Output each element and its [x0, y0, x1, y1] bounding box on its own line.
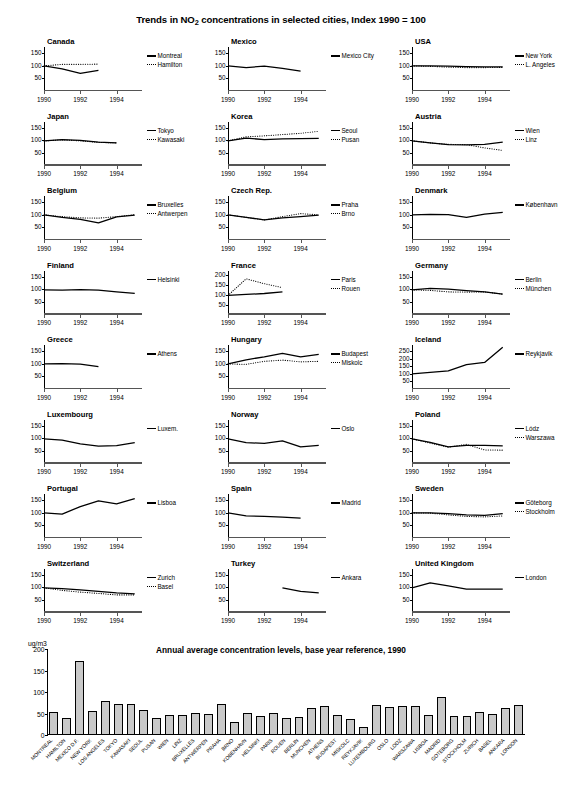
plot-area: 50100150199019921994 — [412, 271, 510, 315]
y-tick-label: 150 — [31, 572, 42, 578]
series-k-benhavn — [412, 212, 503, 217]
y-tick-label: 100 — [399, 286, 410, 292]
y-tick-label: 150 — [215, 572, 226, 578]
x-tick — [117, 389, 118, 392]
x-tick-label: 1990 — [405, 544, 419, 550]
panel-title: Belgium — [47, 186, 77, 195]
legend-item-rouen: Rouen — [331, 285, 375, 292]
bar-column — [125, 648, 138, 734]
y-tick-label: 100 — [215, 435, 226, 441]
x-tick — [117, 315, 118, 318]
x-tick — [412, 91, 413, 94]
x-tick-label: 1990 — [37, 395, 51, 401]
panel-title: Austria — [415, 112, 441, 121]
legend-label: Mexico City — [341, 52, 374, 59]
bar-column — [512, 648, 525, 734]
y-tick-label: 50 — [402, 597, 409, 603]
x-tick-label: 1992 — [73, 97, 87, 103]
legend-item-warszawa: Warszawa — [515, 434, 559, 441]
legend: BudapestMiskolc — [331, 350, 375, 368]
legend-item-mexico-city: Mexico City — [331, 52, 375, 59]
solid-line-icon — [515, 127, 524, 134]
y-tick-label: 100 — [215, 361, 226, 367]
x-tick-label: 1992 — [441, 544, 455, 550]
y-tick-label: 100 — [215, 212, 226, 218]
legend-item-wien: Wien — [515, 127, 559, 134]
plot-area: 50100150199019921994 — [44, 345, 142, 389]
y-tick-label: 100 — [31, 361, 42, 367]
bar-y-tick — [45, 671, 48, 672]
series-lines — [44, 122, 142, 166]
x-tick-label: 1990 — [37, 246, 51, 252]
legend: New YorkL. Angeles — [515, 52, 559, 70]
legend-label: Lódz — [525, 425, 539, 432]
y-tick-label: 150 — [31, 274, 42, 280]
legend-label: Linz — [525, 136, 537, 143]
x-tick — [485, 464, 486, 467]
bar-column — [215, 648, 228, 734]
series-lines — [228, 196, 326, 240]
series-lines — [228, 47, 326, 91]
x-tick — [264, 240, 265, 243]
x-tick-label: 1994 — [109, 544, 123, 550]
dotted-line-icon — [515, 136, 524, 143]
bar — [49, 712, 58, 734]
bar-column — [86, 648, 99, 734]
x-tick-label: 1994 — [477, 97, 491, 103]
panel-usa: USA50100150199019921994New YorkL. Angele… — [374, 36, 558, 111]
bar — [346, 719, 355, 734]
bar-y-tick-label: 0 — [41, 732, 45, 739]
legend-item-oslo: Oslo — [331, 425, 375, 432]
y-tick-label: 50 — [402, 299, 409, 305]
legend-label: Lisboa — [157, 499, 176, 506]
legend-item-miskolc: Miskolc — [331, 359, 375, 366]
legend-label: Basel — [157, 583, 173, 590]
y-tick-label: 50 — [402, 378, 409, 384]
series-lines — [44, 271, 142, 315]
y-tick-label: 50 — [402, 150, 409, 156]
legend-item-l-dz: Lódz — [515, 425, 559, 432]
x-tick — [117, 166, 118, 169]
x-tick — [485, 389, 486, 392]
legend-label: Luxem. — [157, 425, 178, 432]
y-tick-label: 50 — [218, 75, 225, 81]
x-tick-label: 1994 — [477, 618, 491, 624]
series-lisboa — [44, 499, 135, 515]
x-tick — [44, 613, 45, 616]
x-tick-label: 1992 — [441, 618, 455, 624]
y-tick-label: 100 — [399, 371, 410, 377]
title-pre: Trends in NO — [136, 14, 195, 25]
series-lines — [228, 345, 326, 389]
x-tick-label: 1994 — [293, 618, 307, 624]
x-tick-label: 1992 — [73, 618, 87, 624]
legend: WienLinz — [515, 127, 559, 145]
legend-label: Rouen — [341, 285, 360, 292]
bar-column — [228, 648, 241, 734]
bar — [488, 714, 497, 734]
y-tick-label: 150 — [31, 497, 42, 503]
x-tick-label: 1994 — [293, 320, 307, 326]
small-multiples-grid: Canada50100150199019921994MontrealHamilt… — [6, 36, 558, 632]
x-tick — [264, 538, 265, 541]
panel-title: Canada — [47, 37, 74, 46]
panel-denmark: Denmark50100150199019921994København — [374, 185, 558, 260]
plot-area: 50100150199019921994 — [228, 569, 326, 613]
x-tick — [44, 538, 45, 541]
legend-label: Praha — [341, 201, 358, 208]
panel-spain: Spain50100150199019921994Madrid — [190, 483, 374, 558]
plot-area: 50100150199019921994 — [412, 569, 510, 613]
x-tick-label: 1994 — [477, 544, 491, 550]
bar-column — [150, 648, 163, 734]
plot-area: 50100150200250199019921994 — [412, 345, 510, 389]
x-tick — [301, 315, 302, 318]
series-lines — [228, 271, 326, 315]
panel-norway: Norway50100150199019921994Oslo — [190, 409, 374, 484]
plot-area: 50100150199019921994 — [44, 47, 142, 91]
plot-area: 50100150199019921994 — [44, 494, 142, 538]
legend-label: Reykjavik — [525, 350, 552, 357]
bar-column — [47, 648, 60, 734]
bar-y-tick — [45, 649, 48, 650]
panel-poland: Poland50100150199019921994LódzWarszawa — [374, 409, 558, 484]
bar — [114, 704, 123, 734]
x-tick-label: 1992 — [73, 469, 87, 475]
